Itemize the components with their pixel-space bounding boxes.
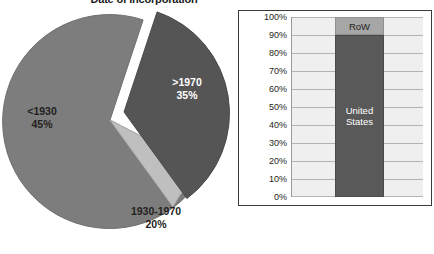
- y-tick-40: 40%: [243, 121, 287, 130]
- y-tick-20: 20%: [243, 157, 287, 166]
- y-tick-10: 10%: [243, 175, 287, 184]
- bar-segment-row-label: RoW: [349, 21, 370, 32]
- y-tick-90: 90%: [243, 31, 287, 40]
- pie-label-lt1930-name: <1930: [27, 105, 57, 117]
- pie-label-1930-1970-name: 1930-1970: [131, 205, 181, 217]
- bar-segment-row[interactable]: RoW: [335, 17, 383, 35]
- stacked-bar: RoW United States: [335, 17, 383, 197]
- pie-chart-svg: >1970 35% <1930 45% 1930-1970 20%: [0, 8, 232, 248]
- plot-area: RoW United States: [291, 17, 423, 197]
- pie-label-gt1970-value: 35%: [176, 89, 198, 101]
- page-title: Date of incorporation: [44, 0, 244, 5]
- pie-label-gt1970-name: >1970: [172, 76, 202, 88]
- y-axis: 100% 90% 80% 70% 60% 50% 40% 30% 20% 10%…: [243, 17, 287, 197]
- y-tick-100: 100%: [243, 13, 287, 22]
- bar-segment-united-states-label: United States: [346, 105, 373, 127]
- y-tick-0: 0%: [243, 193, 287, 202]
- pie-chart-panel: >1970 35% <1930 45% 1930-1970 20%: [0, 8, 232, 248]
- y-tick-60: 60%: [243, 85, 287, 94]
- bar-segment-united-states[interactable]: United States: [335, 35, 383, 197]
- y-tick-50: 50%: [243, 103, 287, 112]
- pie-label-lt1930-value: 45%: [31, 118, 53, 130]
- y-tick-70: 70%: [243, 67, 287, 76]
- pie-label-1930-1970-value: 20%: [145, 218, 167, 230]
- bar-chart-panel: 100% 90% 80% 70% 60% 50% 40% 30% 20% 10%…: [238, 10, 432, 206]
- y-tick-80: 80%: [243, 49, 287, 58]
- y-tick-30: 30%: [243, 139, 287, 148]
